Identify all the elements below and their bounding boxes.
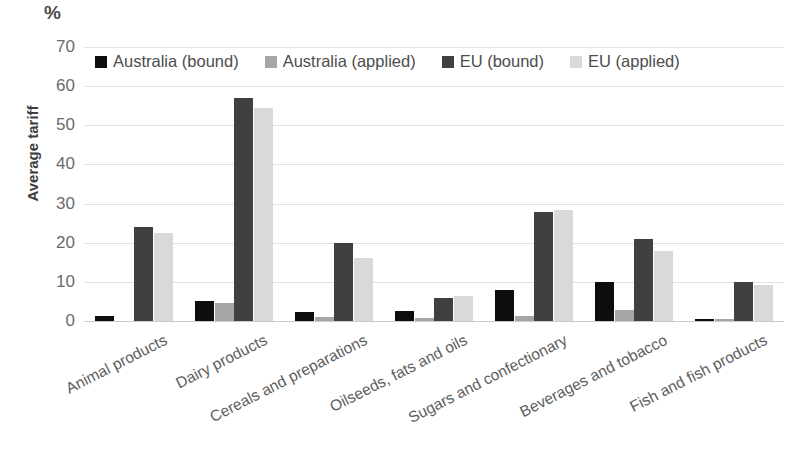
legend-item[interactable]: EU (bound) [442, 52, 544, 71]
y-axis-tick-label: 70 [56, 37, 75, 57]
bar [215, 303, 234, 321]
legend-item[interactable]: EU (applied) [570, 52, 680, 71]
bar [415, 318, 434, 321]
bar [154, 233, 173, 321]
x-axis-category-label: Dairy products [0, 331, 270, 462]
chart-legend: Australia (bound)Australia (applied)EU (… [95, 52, 680, 71]
bar [454, 296, 473, 321]
y-axis-tick-label: 0 [66, 311, 75, 331]
bar [615, 310, 634, 321]
bar [95, 316, 114, 321]
bar [234, 98, 253, 321]
x-axis-category-label: Cereals and preparations [6, 331, 371, 462]
x-axis-category-label: Sugars and confectionary [206, 331, 571, 462]
bar [134, 227, 153, 321]
bar [654, 251, 673, 321]
x-axis-line [84, 321, 784, 322]
bar [334, 243, 353, 321]
bar [734, 282, 753, 321]
bar [354, 258, 373, 321]
bar [695, 319, 714, 321]
bar [395, 311, 414, 321]
legend-label: EU (bound) [460, 52, 544, 71]
bar-group [284, 47, 384, 321]
bar-chart: % Average tariff 010203040506070 Austral… [0, 0, 791, 462]
bar [295, 312, 314, 321]
legend-swatch-icon [570, 56, 582, 68]
bar-group [184, 47, 284, 321]
plot-area: 010203040506070 [84, 47, 784, 321]
bar [434, 298, 453, 321]
bar [515, 316, 534, 321]
bar [534, 212, 553, 321]
y-axis-title: Average tariff [24, 54, 41, 254]
x-axis-category-label: Beverages and tobacco [306, 331, 671, 462]
bar [715, 319, 734, 321]
y-axis-tick-label: 60 [56, 76, 75, 96]
y-axis-tick-label: 30 [56, 194, 75, 214]
unit-label: % [44, 2, 61, 24]
bar-group [84, 47, 184, 321]
bar-group [384, 47, 484, 321]
legend-swatch-icon [265, 56, 277, 68]
legend-item[interactable]: Australia (applied) [265, 52, 416, 71]
bar [195, 301, 214, 321]
y-axis-tick-label: 10 [56, 272, 75, 292]
x-axis-category-label: Animal products [0, 331, 170, 462]
legend-swatch-icon [442, 56, 454, 68]
bar [754, 285, 773, 321]
bar-group [584, 47, 684, 321]
y-axis-tick-label: 40 [56, 154, 75, 174]
bar [495, 290, 514, 321]
legend-swatch-icon [95, 56, 107, 68]
x-axis-category-label: Fish and fish products [406, 331, 771, 462]
bar [634, 239, 653, 321]
legend-label: EU (applied) [588, 52, 680, 71]
legend-label: Australia (applied) [283, 52, 416, 71]
y-axis-tick-label: 50 [56, 115, 75, 135]
y-axis-tick-label: 20 [56, 233, 75, 253]
bar [554, 210, 573, 321]
bar [595, 282, 614, 321]
bar [254, 108, 273, 321]
bar-group [684, 47, 784, 321]
bar [315, 317, 334, 321]
legend-item[interactable]: Australia (bound) [95, 52, 239, 71]
legend-label: Australia (bound) [113, 52, 239, 71]
bar-group [484, 47, 584, 321]
x-axis-category-label: Oilseeds, fats and oils [106, 331, 471, 462]
